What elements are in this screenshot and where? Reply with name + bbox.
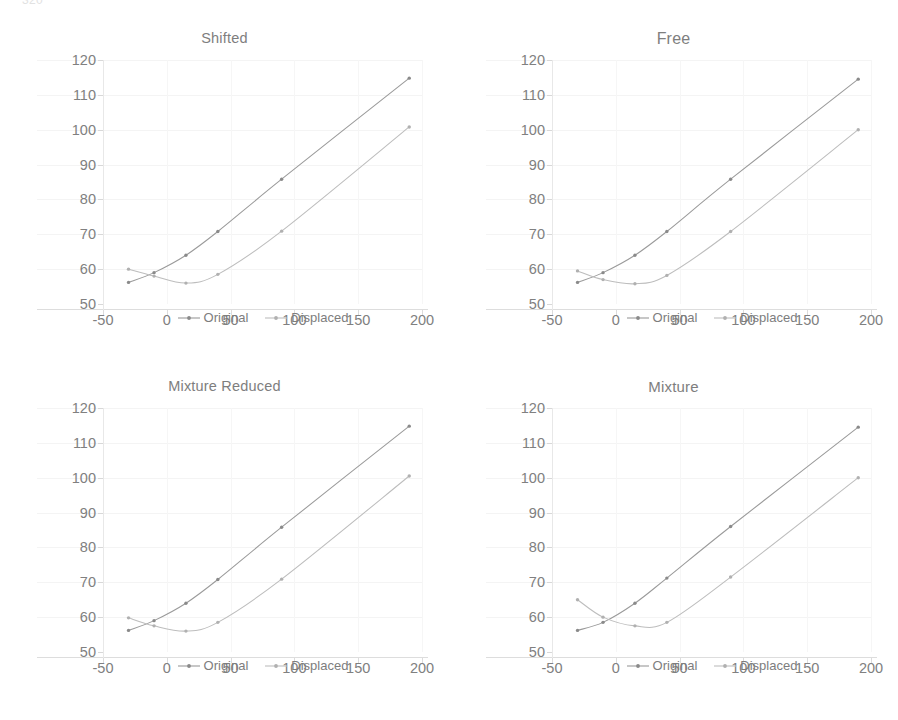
data-point-displaced [633, 624, 636, 627]
data-point-original [152, 271, 155, 274]
y-axis-tick-label: 110 [522, 435, 545, 451]
y-axis-tick-label: 120 [72, 52, 96, 68]
y-axis-tick-label: 100 [521, 470, 545, 486]
data-point-original [601, 621, 604, 624]
legend-entry-displaced[interactable]: Displaced [713, 310, 797, 325]
legend-label-displaced: Displaced [291, 658, 348, 673]
data-point-displaced [665, 274, 668, 277]
series-line-displaced [578, 478, 859, 628]
data-point-original [216, 230, 219, 233]
chart-panel-mixture: Mixture 5060708090100110120-500501001502… [449, 362, 898, 714]
legend-marker-original-icon [177, 313, 201, 323]
legend-entry-original[interactable]: Original [626, 310, 698, 325]
data-point-displaced [576, 598, 579, 601]
data-point-original [857, 425, 860, 428]
legend-entry-original[interactable]: Original [177, 310, 249, 325]
data-point-displaced [127, 267, 130, 270]
data-point-displaced [280, 577, 283, 580]
series-line-original [129, 426, 410, 630]
data-point-original [408, 424, 411, 427]
y-axis-tick-label: 60 [529, 261, 545, 277]
y-axis-tick-label: 120 [521, 52, 545, 68]
legend-label-original: Original [204, 658, 249, 673]
y-axis-tick-label: 90 [80, 505, 96, 521]
data-point-original [665, 230, 668, 233]
y-axis-tick-label: 80 [80, 191, 96, 207]
data-point-displaced [729, 575, 732, 578]
y-axis-tick-label: 60 [80, 261, 96, 277]
data-point-original [729, 178, 732, 181]
data-point-displaced [216, 273, 219, 276]
legend-entry-original[interactable]: Original [177, 658, 249, 673]
chart-legend: Original Displaced [103, 310, 422, 325]
legend-marker-original-icon [626, 661, 650, 671]
data-point-displaced [601, 615, 604, 618]
data-point-displaced [408, 474, 411, 477]
y-axis-tick-label: 120 [521, 400, 545, 416]
data-point-displaced [280, 229, 283, 232]
legend-label-displaced: Displaced [740, 310, 797, 325]
y-axis-tick-label: 100 [521, 122, 545, 138]
series-line-original [578, 427, 859, 630]
legend-label-original: Original [204, 310, 249, 325]
data-point-displaced [408, 125, 411, 128]
legend-marker-original-icon [177, 661, 201, 671]
data-point-original [576, 629, 579, 632]
data-point-original [601, 271, 604, 274]
data-point-displaced [857, 476, 860, 479]
series-line-displaced [129, 476, 410, 631]
chart-grid: Shifted 5060708090100110120-500501001502… [0, 14, 898, 720]
series-layer [552, 408, 871, 652]
y-axis-tick-label: 80 [529, 539, 545, 555]
chart-panel-free: Free 5060708090100110120-50050100150200 … [449, 14, 898, 362]
series-layer [103, 60, 422, 304]
data-point-original [216, 578, 219, 581]
data-point-displaced [216, 621, 219, 624]
plot-area: 5060708090100110120-50050100150200 [103, 60, 422, 304]
series-line-original [129, 78, 410, 282]
legend-label-displaced: Displaced [740, 658, 797, 673]
chart-title: Mixture [449, 378, 898, 395]
data-point-original [633, 254, 636, 257]
chart-panel-shifted: Shifted 5060708090100110120-500501001502… [0, 14, 449, 362]
legend-marker-displaced-icon [713, 313, 737, 323]
gridline-vertical [871, 60, 872, 304]
data-point-original [633, 602, 636, 605]
series-layer [103, 408, 422, 652]
data-point-displaced [633, 282, 636, 285]
series-layer [552, 60, 871, 304]
y-axis-tick-label: 90 [529, 505, 545, 521]
legend-entry-displaced[interactable]: Displaced [264, 658, 348, 673]
data-point-displaced [184, 281, 187, 284]
legend-entry-original[interactable]: Original [626, 658, 698, 673]
y-axis-tick-label: 100 [72, 122, 96, 138]
y-axis-tick-label: 110 [73, 435, 96, 451]
y-axis-tick-label: 120 [72, 400, 96, 416]
data-point-original [729, 525, 732, 528]
y-axis-tick-label: 70 [80, 574, 96, 590]
data-point-original [665, 576, 668, 579]
legend-label-original: Original [653, 310, 698, 325]
series-line-displaced [129, 127, 410, 283]
data-point-original [127, 629, 130, 632]
legend-entry-displaced[interactable]: Displaced [713, 658, 797, 673]
data-point-displaced [601, 278, 604, 281]
legend-marker-displaced-icon [713, 661, 737, 671]
y-axis-tick-label: 80 [80, 539, 96, 555]
gridline-vertical [871, 408, 872, 652]
plot-area: 5060708090100110120-50050100150200 [552, 60, 871, 304]
data-point-original [152, 619, 155, 622]
y-axis-tick-label: 70 [529, 574, 545, 590]
legend-marker-displaced-icon [264, 313, 288, 323]
gridline-vertical [422, 60, 423, 304]
y-axis-tick-label: 110 [522, 87, 545, 103]
y-axis-tick-label: 90 [80, 157, 96, 173]
y-axis-tick-label: 70 [529, 226, 545, 242]
plot-area: 5060708090100110120-50050100150200 [552, 408, 871, 652]
chart-title: Shifted [0, 30, 449, 46]
data-point-original [127, 281, 130, 284]
plot-area: 5060708090100110120-50050100150200 [103, 408, 422, 652]
chart-panel-mixture-reduced: Mixture Reduced 5060708090100110120-5005… [0, 362, 449, 714]
legend-entry-displaced[interactable]: Displaced [264, 310, 348, 325]
y-axis-tick-label: 110 [73, 87, 96, 103]
